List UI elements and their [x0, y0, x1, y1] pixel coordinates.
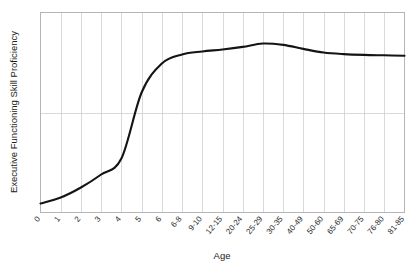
y-axis-title: Executive Functioning Skill Proficiency: [8, 31, 19, 193]
chart-figure: 01234566-89-1012-1520-2425-2930-3540-495…: [0, 0, 419, 270]
x-axis-title: Age: [214, 250, 231, 261]
chart-canvas: 01234566-89-1012-1520-2425-2930-3540-495…: [0, 0, 419, 270]
